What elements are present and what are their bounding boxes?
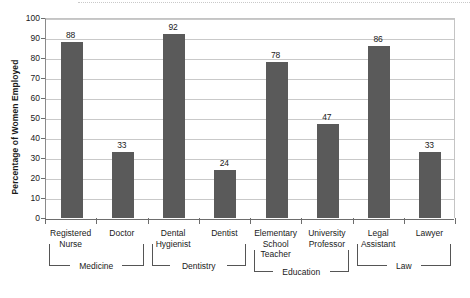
bar [419, 152, 441, 218]
category-label: Dentist [196, 228, 252, 239]
top-dotted-rule [78, 2, 470, 4]
bar-value-label: 47 [305, 113, 349, 122]
x-tick-mark [455, 218, 456, 224]
category-label-line: School [248, 239, 304, 250]
y-tick-label-50: 50 [0, 114, 40, 123]
gridline-20 [46, 179, 454, 180]
bar [112, 152, 134, 218]
category-label-line: Elementary [248, 228, 304, 239]
y-axis-title: Percentage of Women Employed [10, 39, 20, 215]
y-tick-label-80: 80 [0, 54, 40, 63]
category-label-line: Dentist [196, 228, 252, 239]
gridline-40 [46, 139, 454, 140]
x-tick-mark [250, 218, 251, 224]
bar-value-label: 24 [202, 159, 246, 168]
bar [317, 124, 339, 218]
x-tick-mark [45, 218, 46, 224]
y-tick-label-30: 30 [0, 154, 40, 163]
y-tick-label-70: 70 [0, 74, 40, 83]
bar-value-label: 92 [151, 23, 195, 32]
y-tick-label-60: 60 [0, 94, 40, 103]
bar-value-label: 33 [100, 141, 144, 150]
gridline-60 [46, 99, 454, 100]
gridline-10 [46, 199, 454, 200]
x-tick-mark [148, 218, 149, 224]
gridline-100 [46, 19, 454, 20]
group-bracket: Education [254, 250, 349, 278]
gridline-80 [46, 59, 454, 60]
group-bracket: Dentistry [152, 244, 247, 272]
y-tick-label-0: 0 [0, 214, 40, 223]
plot-area [45, 18, 455, 218]
bar [266, 62, 288, 218]
group-label: Medicine [49, 261, 144, 272]
gridline-50 [46, 119, 454, 120]
y-tick-label-100: 100 [0, 14, 40, 23]
y-tick-label-40: 40 [0, 134, 40, 143]
bar-chart: Percentage of Women Employed 10090807060… [0, 0, 470, 298]
y-tick-label-20: 20 [0, 174, 40, 183]
group-label: Dentistry [152, 261, 247, 272]
category-label-line: Doctor [94, 228, 150, 239]
y-tick-label-90: 90 [0, 34, 40, 43]
category-label-line: Registered [43, 228, 99, 239]
gridline-30 [46, 159, 454, 160]
gridline-70 [46, 79, 454, 80]
category-label: Doctor [94, 228, 150, 239]
category-label: UniversityProfessor [299, 228, 355, 249]
category-label-line: Lawyer [401, 228, 457, 239]
category-label-line: Dental [145, 228, 201, 239]
category-label: Lawyer [401, 228, 457, 239]
bar-value-label: 88 [49, 31, 93, 40]
x-tick-mark [353, 218, 354, 224]
group-label: Law [357, 261, 452, 272]
x-tick-mark [404, 218, 405, 224]
category-label-line: University [299, 228, 355, 239]
group-label: Education [254, 267, 349, 278]
y-tick-label-10: 10 [0, 194, 40, 203]
bar-value-label: 86 [356, 35, 400, 44]
bar [368, 46, 390, 218]
bar-value-label: 78 [254, 51, 298, 60]
bar [214, 170, 236, 218]
category-label-line: Professor [299, 239, 355, 250]
group-bracket: Medicine [49, 244, 144, 272]
category-label-line: Legal [350, 228, 406, 239]
bar-value-label: 33 [407, 141, 451, 150]
bar [61, 42, 83, 218]
x-tick-mark [301, 218, 302, 224]
group-bracket: Law [357, 244, 452, 272]
bar [163, 34, 185, 218]
x-tick-mark [96, 218, 97, 224]
x-tick-mark [199, 218, 200, 224]
